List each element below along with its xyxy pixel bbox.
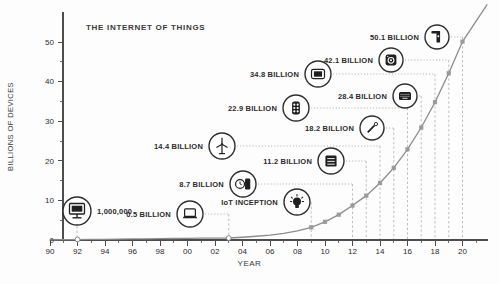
x-tick-label: 20 bbox=[458, 247, 467, 256]
keyboard-icon-part bbox=[404, 96, 405, 97]
keyboard-icon-part bbox=[401, 94, 402, 95]
keyboard-icon-part bbox=[404, 94, 405, 95]
data-point-circle bbox=[226, 236, 231, 241]
traffic-light-icon bbox=[292, 102, 300, 115]
data-point-square bbox=[364, 194, 368, 198]
x-tick-label: 14 bbox=[376, 247, 385, 256]
annotation-label: 28.4 BILLION bbox=[338, 92, 387, 101]
x-tick-label: 18 bbox=[431, 247, 440, 256]
annotation-label: 22.9 BILLION bbox=[228, 104, 277, 113]
keyboard-icon-part bbox=[403, 94, 404, 95]
washing-machine-icon-part bbox=[387, 56, 388, 57]
x-tick-label: 02 bbox=[211, 247, 220, 256]
y-tick-label: 10 bbox=[45, 196, 54, 205]
y-tick-label: 50 bbox=[45, 38, 54, 47]
data-point-square bbox=[350, 203, 354, 207]
annotation-label: 14.4 BILLION bbox=[154, 142, 203, 151]
data-point-square bbox=[337, 213, 341, 217]
keyboard-icon-part bbox=[401, 96, 402, 97]
data-point-square bbox=[378, 181, 382, 185]
x-tick-label: 16 bbox=[403, 247, 412, 256]
annotation-icon-circle bbox=[230, 171, 256, 197]
door-lock-icon-part bbox=[437, 35, 439, 37]
data-point-square bbox=[460, 40, 464, 44]
x-tick-label: 96 bbox=[128, 247, 137, 256]
annotation-label: 34.8 BILLION bbox=[250, 70, 299, 79]
annotation-label: 8.7 BILLION bbox=[179, 180, 224, 189]
y-tick-label: 30 bbox=[45, 117, 54, 126]
x-tick-label: 90 bbox=[46, 247, 55, 256]
washing-machine-icon bbox=[386, 55, 397, 66]
data-point-square bbox=[392, 166, 396, 170]
data-point-square bbox=[309, 225, 313, 229]
traffic-light-icon-part bbox=[293, 107, 295, 109]
x-tick-label: 00 bbox=[183, 247, 192, 256]
y-tick-label: 40 bbox=[45, 77, 54, 86]
data-point-circle bbox=[75, 237, 80, 242]
lightbulb-icon-part bbox=[293, 198, 301, 206]
data-point-square bbox=[405, 147, 409, 151]
keyboard-icon-part bbox=[406, 96, 407, 97]
traffic-light-icon-part bbox=[293, 104, 295, 106]
keyboard-icon-part bbox=[408, 96, 409, 97]
x-tick-label: 92 bbox=[73, 247, 82, 256]
keyboard-icon-part bbox=[403, 96, 404, 97]
annotation-label: 50.1 BILLION bbox=[370, 33, 419, 42]
plot-area: 9092949698000204060810121416182001020304… bbox=[0, 0, 499, 284]
x-tick-label: 94 bbox=[101, 247, 110, 256]
x-tick-label: 04 bbox=[238, 247, 247, 256]
laptop-icon-part bbox=[183, 216, 198, 218]
data-point-square bbox=[419, 125, 423, 129]
iot-devices-chart: THE INTERNET OF THINGS BILLIONS OF DEVIC… bbox=[0, 0, 499, 284]
annotation-icon-circle bbox=[177, 201, 203, 227]
door-lock-icon-part bbox=[431, 31, 439, 34]
data-point-square bbox=[447, 71, 451, 75]
traffic-light-icon-part bbox=[297, 110, 299, 112]
annotation-label: 11.2 BILLION bbox=[263, 157, 312, 166]
x-tick-label: 12 bbox=[348, 247, 357, 256]
y-tick-label: 20 bbox=[45, 157, 54, 166]
annotation-label: 42.1 BILLION bbox=[324, 56, 373, 65]
tablet-icon-part bbox=[314, 71, 322, 76]
lightbulb-icon-part bbox=[295, 205, 299, 208]
keyboard-icon-part bbox=[406, 94, 407, 95]
traffic-light-icon-part bbox=[297, 107, 299, 109]
data-point-square bbox=[433, 100, 437, 104]
server-icon bbox=[325, 155, 336, 166]
x-tick-label: 06 bbox=[266, 247, 275, 256]
data-point-square bbox=[323, 220, 327, 224]
desktop-computer-icon-part bbox=[72, 206, 83, 212]
annotation-label: 0.5 BILLION bbox=[126, 210, 171, 219]
annotation-label: 18.2 BILLION bbox=[305, 124, 354, 133]
x-tick-label: 08 bbox=[293, 247, 302, 256]
x-tick-label: 98 bbox=[156, 247, 165, 256]
keyboard-icon bbox=[399, 92, 411, 100]
wind-turbine-icon-part bbox=[221, 143, 223, 145]
x-tick-label: 10 bbox=[321, 247, 330, 256]
y-axis-title: BILLIONS OF DEVICES bbox=[6, 77, 15, 177]
annotation-label: IoT INCEPTION bbox=[221, 198, 278, 207]
smartwatch-icon-part bbox=[245, 178, 250, 189]
traffic-light-icon-part bbox=[293, 110, 295, 112]
washing-machine-icon-part bbox=[390, 59, 392, 61]
keyboard-icon-part bbox=[408, 94, 409, 95]
traffic-light-icon-part bbox=[297, 104, 299, 106]
x-axis-title: YEAR bbox=[0, 259, 499, 268]
chart-title: THE INTERNET OF THINGS bbox=[86, 23, 205, 32]
